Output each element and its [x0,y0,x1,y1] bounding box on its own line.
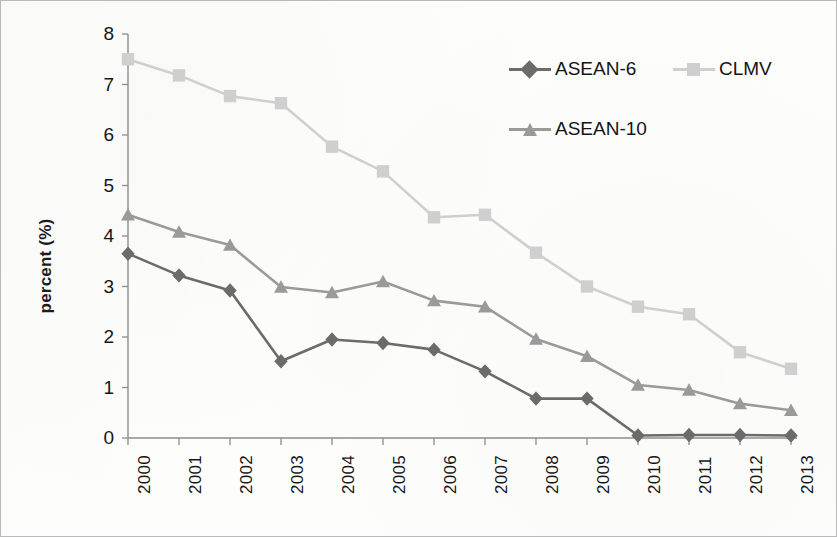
data-point-marker [479,209,491,221]
chart-figure: percent (%) 012345678 200020012002200320… [0,0,837,537]
data-point-marker [427,342,440,356]
data-point-marker [173,69,185,81]
data-point-marker [785,363,797,375]
data-point-marker [683,308,695,320]
y-axis-title: percent (%) [31,181,61,351]
data-point-marker [377,165,389,177]
y-tick-label: 0 [88,427,114,449]
y-tick-label: 2 [88,326,114,348]
legend-item-asean-10[interactable]: ASEAN-10 [509,118,647,140]
data-point-marker [325,332,338,346]
data-point-marker [275,97,287,109]
data-point-marker [376,275,390,287]
x-tick-label: 2002 [237,455,257,494]
data-point-marker [224,90,236,102]
series-clmv [122,53,797,375]
legend-marker-triangle-icon [509,120,551,138]
data-point-marker [121,208,135,220]
x-tick-label: 2004 [339,455,359,494]
data-point-marker [122,53,134,65]
legend-marker-square-icon [673,60,715,78]
x-tick-label: 2008 [543,455,563,494]
legend-label: ASEAN-10 [555,118,647,140]
series-asean-6 [121,246,797,442]
y-tick-label: 1 [88,377,114,399]
x-tick-label: 2001 [186,455,206,494]
x-tick-label: 2010 [645,455,665,494]
data-point-marker [428,211,440,223]
data-point-marker [580,391,593,405]
data-point-marker [376,336,389,350]
legend-item-clmv[interactable]: CLMV [673,58,772,80]
data-point-marker [529,391,542,405]
data-point-marker [326,140,338,152]
y-axis-title-text: percent (%) [36,219,56,314]
data-point-marker [733,428,746,442]
y-tick-label: 5 [88,175,114,197]
data-point-marker [530,246,542,258]
data-point-marker [172,268,185,282]
data-point-marker [734,346,746,358]
y-tick-label: 7 [88,74,114,96]
data-point-marker [631,428,644,442]
y-tick-label: 4 [88,225,114,247]
data-point-marker [682,428,695,442]
y-tick-label: 3 [88,276,114,298]
x-tick-label: 2000 [135,455,155,494]
y-tick-label: 6 [88,124,114,146]
legend-label: CLMV [719,58,772,80]
x-tick-label: 2013 [798,455,818,494]
y-tick-label: 8 [88,23,114,45]
legend-marker-diamond-icon [509,60,551,78]
x-tick-label: 2006 [441,455,461,494]
data-point-marker [121,246,134,260]
data-point-marker [784,428,797,442]
x-tick-label: 2007 [492,455,512,494]
x-tick-label: 2005 [390,455,410,494]
data-point-marker [581,280,593,292]
data-point-marker [478,364,491,378]
x-tick-label: 2003 [288,455,308,494]
legend-item-asean-6[interactable]: ASEAN-6 [509,58,636,80]
x-tick-label: 2012 [747,455,767,494]
series-layer [121,53,798,443]
axis-lines [122,34,797,445]
data-point-marker [632,301,644,313]
data-point-marker [529,332,543,344]
x-tick-label: 2011 [696,456,716,494]
legend-label: ASEAN-6 [555,58,636,80]
x-tick-label: 2009 [594,455,614,494]
series-asean-10 [121,208,798,416]
